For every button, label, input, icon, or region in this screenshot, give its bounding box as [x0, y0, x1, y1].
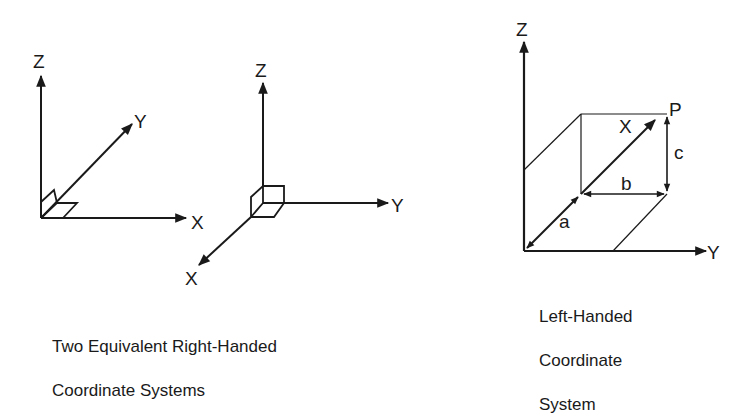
z-axis-label-3: Z [516, 20, 528, 39]
x-axis-label-2: X [185, 269, 198, 288]
z-axis-label-2: Z [255, 61, 267, 80]
x-axis [581, 120, 655, 194]
z-axis-label-1: Z [33, 52, 45, 71]
dimension-a-label: a [559, 212, 570, 231]
left-handed-caption-line-1: Left-Handed [539, 306, 633, 328]
right-handed-caption: Two Equivalent Right-Handed Coordinate S… [52, 314, 277, 417]
y-axis-label-3: Y [707, 243, 720, 262]
dimension-b-label: b [621, 174, 632, 193]
x-axis-label-3: X [619, 117, 632, 136]
x-axis-label-1: X [191, 213, 204, 232]
box-slant-top [524, 114, 581, 170]
y-axis-label-2: Y [391, 196, 404, 215]
y-axis-label-1: Y [134, 112, 147, 131]
dimension-a [527, 197, 578, 248]
left-handed-caption-line-2: Coordinate [539, 350, 633, 372]
right-handed-system-2 [199, 83, 388, 265]
cube-marker [251, 186, 284, 217]
corner-marker [41, 190, 77, 218]
right-handed-caption-line-1: Two Equivalent Right-Handed [52, 336, 277, 358]
right-handed-caption-line-2: Coordinate Systems [52, 380, 277, 402]
x-axis [199, 217, 251, 265]
dimension-c-label: c [674, 143, 684, 162]
box-slant-bottom [613, 194, 667, 251]
left-handed-caption-line-3: System [539, 394, 633, 416]
right-handed-system-1 [41, 76, 186, 218]
left-handed-caption: Left-Handed Coordinate System [539, 284, 633, 417]
point-p-label: P [669, 100, 682, 119]
y-axis [41, 124, 132, 218]
